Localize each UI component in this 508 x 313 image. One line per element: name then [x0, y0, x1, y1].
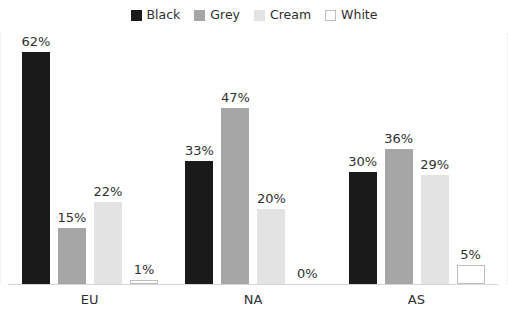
- bar-slot-eu-cream[interactable]: 22%: [94, 33, 122, 284]
- axis-baseline: [8, 284, 498, 285]
- chart-legend: Black Grey Cream White: [0, 6, 508, 24]
- bar-value-label: 29%: [420, 158, 449, 171]
- bar-value-label: 20%: [257, 192, 286, 205]
- bar-eu-grey[interactable]: [58, 228, 86, 284]
- legend-swatch-black-icon: [131, 10, 142, 21]
- bar-eu-black[interactable]: [22, 52, 50, 284]
- bar-na-cream[interactable]: [257, 209, 285, 284]
- bar-value-label: 15%: [58, 211, 87, 224]
- category-label-as: AS: [408, 293, 425, 306]
- legend-label-cream: Cream: [270, 9, 311, 22]
- axis-tick-left: [0, 33, 1, 285]
- bar-slot-as-cream[interactable]: 29%: [421, 33, 449, 284]
- bar-na-grey[interactable]: [221, 108, 249, 284]
- category-cell-na: NA: [171, 286, 334, 313]
- legend-swatch-grey-icon: [194, 10, 205, 21]
- category-axis: EU NA AS: [8, 286, 498, 313]
- bar-slot-eu-white[interactable]: 1%: [130, 33, 158, 284]
- category-cell-as: AS: [335, 286, 498, 313]
- bar-value-label: 47%: [221, 91, 250, 104]
- bar-chart: Black Grey Cream White 62%: [0, 0, 508, 313]
- legend-item-black[interactable]: Black: [131, 9, 181, 22]
- category-cell-eu: EU: [8, 286, 171, 313]
- bar-value-label: 1%: [134, 263, 155, 276]
- bar-value-label: 30%: [348, 155, 377, 168]
- bar-value-label: 33%: [185, 144, 214, 157]
- bar-slot-as-black[interactable]: 30%: [349, 33, 377, 284]
- bar-slot-eu-grey[interactable]: 15%: [58, 33, 86, 284]
- legend-item-grey[interactable]: Grey: [194, 9, 240, 22]
- bar-as-black[interactable]: [349, 172, 377, 284]
- bar-value-label: 5%: [460, 248, 481, 261]
- bar-value-label: 0%: [297, 267, 318, 280]
- legend-item-cream[interactable]: Cream: [254, 9, 311, 22]
- bar-as-cream[interactable]: [421, 175, 449, 284]
- category-label-eu: EU: [81, 293, 99, 306]
- bar-value-label: 62%: [22, 35, 51, 48]
- bar-value-label: 22%: [94, 185, 123, 198]
- bar-slot-na-black[interactable]: 33%: [185, 33, 213, 284]
- category-label-na: NA: [244, 293, 263, 306]
- bar-slot-as-grey[interactable]: 36%: [385, 33, 413, 284]
- plot-area: 62% 15% 22% 1% 33%: [0, 33, 508, 285]
- bar-group-eu: 62% 15% 22% 1%: [8, 33, 171, 284]
- legend-swatch-white-icon: [325, 10, 336, 21]
- legend-swatch-cream-icon: [254, 10, 265, 21]
- legend-label-grey: Grey: [210, 9, 240, 22]
- bar-na-black[interactable]: [185, 161, 213, 284]
- bar-as-white[interactable]: [457, 265, 485, 284]
- bar-group-as: 30% 36% 29% 5%: [335, 33, 498, 284]
- bar-groups: 62% 15% 22% 1% 33%: [8, 33, 498, 284]
- legend-label-white: White: [341, 9, 377, 22]
- bar-slot-eu-black[interactable]: 62%: [22, 33, 50, 284]
- bar-slot-na-white[interactable]: 0%: [293, 33, 321, 284]
- bar-slot-na-cream[interactable]: 20%: [257, 33, 285, 284]
- bar-value-label: 36%: [384, 132, 413, 145]
- legend-item-white[interactable]: White: [325, 9, 377, 22]
- bar-slot-as-white[interactable]: 5%: [457, 33, 485, 284]
- bar-as-grey[interactable]: [385, 149, 413, 284]
- bar-group-na: 33% 47% 20% 0%: [171, 33, 334, 284]
- bar-eu-cream[interactable]: [94, 202, 122, 284]
- bar-eu-white[interactable]: [130, 280, 158, 284]
- legend-label-black: Black: [147, 9, 181, 22]
- bar-slot-na-grey[interactable]: 47%: [221, 33, 249, 284]
